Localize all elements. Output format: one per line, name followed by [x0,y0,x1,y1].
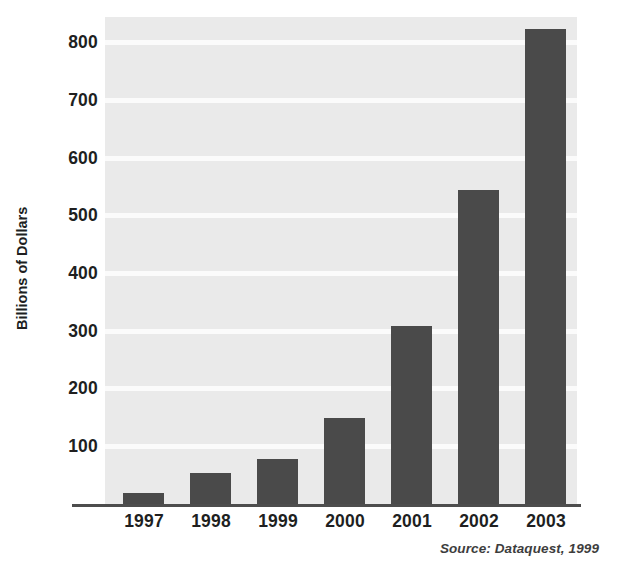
bar-2000 [324,418,365,505]
x-axis-tick-1997: 1997 [109,510,179,533]
y-axis-tick-100: 100 [52,438,98,456]
x-axis-tick-group: 1997 1998 1999 2000 2001 2002 2003 [105,510,577,536]
bar-2001 [391,326,432,505]
y-axis-tick-800: 800 [52,34,98,52]
x-axis-tick-2003: 2003 [511,510,581,533]
x-axis-tick-1998: 1998 [176,510,246,533]
x-axis-tick-2000: 2000 [310,510,380,533]
bar-chart-figure: Billions of Dollars 800 700 600 500 400 … [0,0,623,574]
y-axis-tick-700: 700 [52,92,98,110]
bar-1998 [190,473,231,505]
y-axis-tick-200: 200 [52,380,98,398]
bar-series [105,17,577,505]
y-axis-title: Billions of Dollars [14,207,30,330]
x-axis-tick-2001: 2001 [377,510,447,533]
bar-1999 [257,459,298,505]
source-note: Source: Dataquest, 1999 [440,541,599,556]
x-axis-tick-1999: 1999 [243,510,313,533]
x-axis-line [72,504,581,507]
bar-2003 [525,29,566,505]
y-axis-tick-300: 300 [52,323,98,341]
plot-area [105,17,577,505]
x-axis-tick-2002: 2002 [444,510,514,533]
y-axis-tick-600: 600 [52,150,98,168]
y-axis-tick-400: 400 [52,265,98,283]
bar-2002 [458,190,499,505]
y-axis-tick-group: 800 700 600 500 400 300 200 100 [46,0,98,574]
y-axis-tick-500: 500 [52,207,98,225]
